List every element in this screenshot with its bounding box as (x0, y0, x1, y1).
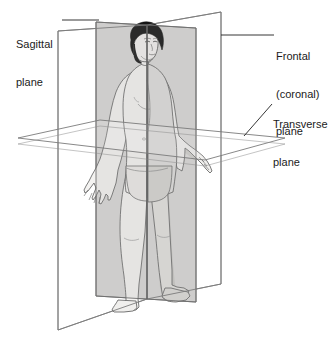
transverse-leader (244, 104, 272, 136)
label-sagittal-plane: Sagittal plane (16, 13, 53, 113)
label-frontal-line1: Frontal (276, 50, 319, 63)
anatomical-planes-diagram: Sagittal plane Frontal (coronal) plane T… (0, 0, 331, 343)
label-transverse-plane: Transverse plane (273, 93, 328, 193)
label-sagittal-line1: Sagittal (16, 38, 53, 51)
label-transverse-line1: Transverse (273, 118, 328, 131)
label-transverse-line2: plane (273, 156, 328, 169)
label-sagittal-line2: plane (16, 76, 53, 89)
